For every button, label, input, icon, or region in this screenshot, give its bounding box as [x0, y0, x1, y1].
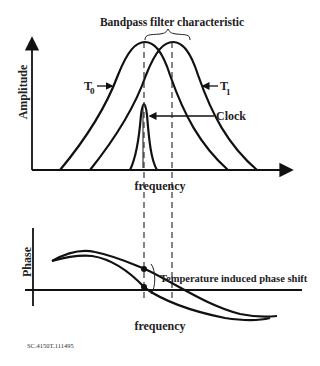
phase-x-label: frequency: [134, 319, 185, 333]
t0-label: T 0: [84, 79, 95, 96]
svg-text:1: 1: [226, 87, 231, 97]
t1-label: T 1: [220, 79, 231, 97]
bandpass-title: Bandpass filter characteristic: [100, 16, 244, 29]
phase-label: Phase: [20, 246, 34, 277]
svg-text:0: 0: [90, 86, 95, 96]
diagram-canvas: Bandpass filter characteristic Amplitude…: [0, 0, 320, 366]
bracket-icon: [145, 29, 190, 40]
figure-id: SC.4150T.111495: [27, 342, 74, 349]
amplitude-plot: Bandpass filter characteristic Amplitude…: [16, 16, 292, 193]
t0-phase-point: [141, 284, 147, 290]
t0-phase-curve: [52, 256, 270, 320]
amplitude-label: Amplitude: [16, 64, 30, 119]
amplitude-x-label: frequency: [134, 179, 185, 193]
t1-phase-point: [141, 266, 147, 272]
phase-shift-annotation: Temperature induced phase shift: [160, 273, 308, 284]
clock-label: Clock: [216, 109, 246, 123]
phase-plot: Phase Temperature induced phase shift fr…: [20, 228, 308, 333]
t1-filter-curve: [90, 42, 257, 170]
